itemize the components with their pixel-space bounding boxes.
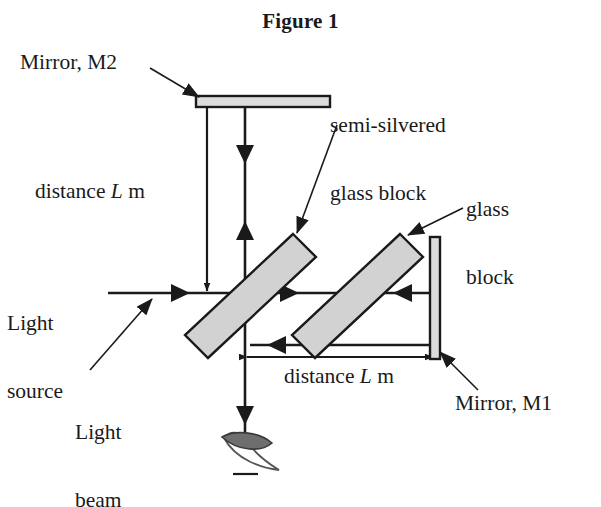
label-light-source: Light source: [7, 266, 63, 448]
label-light-beam-line1: Light: [75, 421, 122, 444]
arrow-left-m1-return: [267, 336, 286, 354]
arrow-up-m2-branch: [236, 221, 254, 240]
label-distance-horizontal-post: m: [372, 364, 394, 388]
label-distance-horizontal-variable: L: [360, 364, 372, 388]
label-distance-horizontal-pre: distance: [284, 364, 360, 388]
label-semi-silvered-glass-block: semi-silvered glass block: [330, 68, 446, 250]
label-mirror-m1: Mirror, M1: [455, 392, 552, 415]
label-light-source-line2: source: [7, 380, 63, 403]
label-glass-block-line2: block: [466, 266, 514, 289]
label-semi-silvered-line2: glass block: [330, 182, 446, 205]
label-mirror-m2: Mirror, M2: [20, 51, 117, 74]
label-distance-vertical: distance L m: [35, 180, 145, 203]
mirror-m2: [196, 96, 330, 107]
arrow-down-eye-branch: [236, 406, 254, 425]
mirror-m1: [430, 237, 440, 359]
label-light-source-line1: Light: [7, 312, 63, 335]
figure-container: Figure 1: [0, 0, 601, 507]
label-glass-block-line1: glass: [466, 198, 514, 221]
leader-mirror-m1: [440, 352, 478, 390]
label-light-beam-line2: beam: [75, 489, 122, 507]
leader-mirror-m2: [150, 68, 199, 97]
label-distance-vertical-post: m: [123, 179, 145, 203]
label-distance-vertical-variable: L: [111, 179, 123, 203]
label-light-beam: Light beam: [75, 375, 122, 507]
label-distance-horizontal: distance L m: [284, 365, 394, 388]
arrow-left-return-upper: [393, 284, 412, 302]
arrow-down-m2-branch: [236, 145, 254, 164]
leader-light-beam: [90, 299, 152, 370]
label-glass-block: glass block: [466, 152, 514, 334]
label-semi-silvered-line1: semi-silvered: [330, 114, 446, 137]
label-distance-vertical-pre: distance: [35, 179, 111, 203]
arrow-right-incoming: [171, 284, 190, 302]
eye-icon: [222, 433, 279, 470]
